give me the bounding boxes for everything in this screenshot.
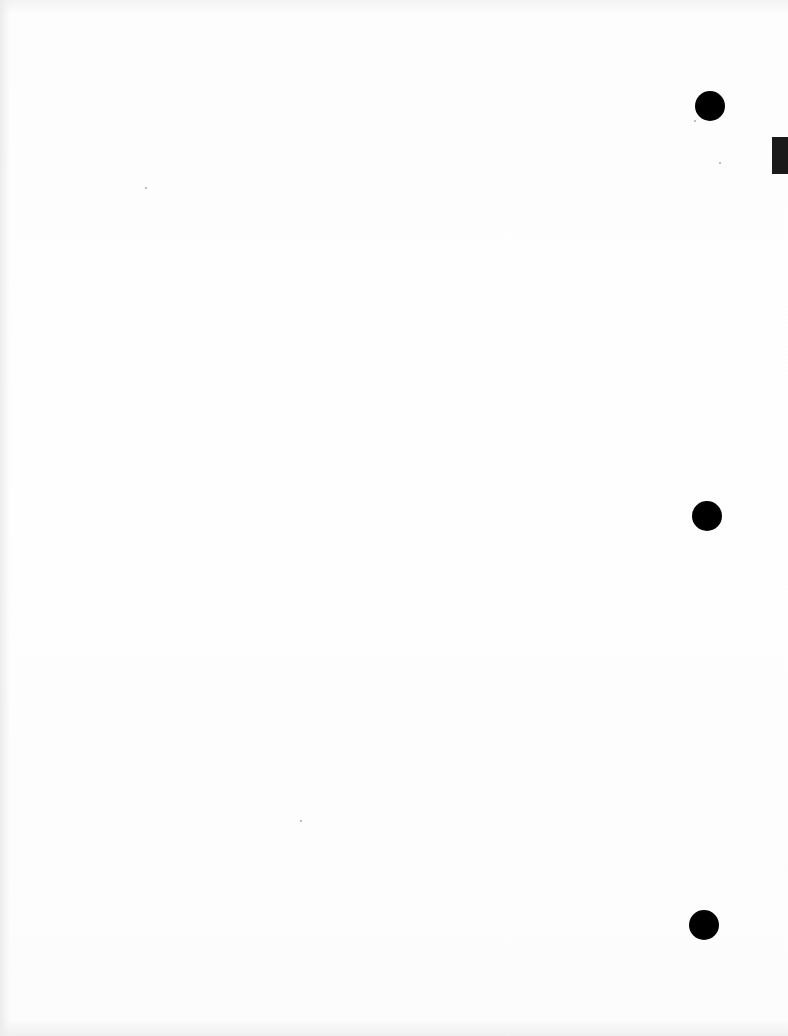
scan-speck xyxy=(145,187,147,189)
scan-speck xyxy=(694,120,696,122)
scan-speck xyxy=(719,162,721,164)
punch-hole-top xyxy=(695,91,725,121)
punch-hole-middle xyxy=(692,501,722,531)
punch-hole-bottom xyxy=(689,910,719,940)
scan-speck xyxy=(300,820,302,822)
scanned-page xyxy=(0,0,788,1036)
page-left-edge-shadow xyxy=(0,0,10,1036)
edge-tab-marker xyxy=(772,137,788,174)
